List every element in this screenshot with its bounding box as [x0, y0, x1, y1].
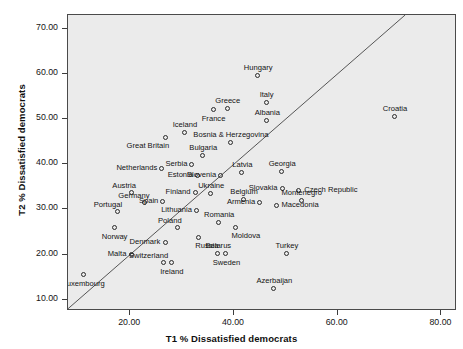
x-tick-mark — [337, 310, 338, 315]
data-point — [161, 260, 166, 265]
data-point — [81, 272, 86, 277]
data-point-label: Moldova — [232, 232, 261, 240]
data-point-label: Luxembourg — [67, 280, 105, 288]
data-point — [216, 220, 221, 225]
data-point-label: Ukraine — [198, 182, 224, 190]
data-point — [239, 170, 244, 175]
data-point-label: Albania — [255, 109, 280, 117]
data-point-label: Latvia — [232, 161, 252, 169]
scatter-chart: LuxembourgMaltaNorwayPortugalAustriaGerm… — [0, 0, 463, 349]
data-point — [163, 240, 168, 245]
data-point — [255, 73, 260, 78]
x-tick-mark — [233, 310, 234, 315]
y-tick-mark — [62, 254, 67, 255]
data-point-label: Portugal — [94, 201, 122, 209]
data-point — [193, 190, 198, 195]
data-point — [112, 225, 117, 230]
data-point-label: France — [202, 115, 226, 123]
y-tick-mark — [62, 208, 67, 209]
data-point-label: Ireland — [160, 268, 183, 276]
data-point-label: Montenegro — [281, 189, 322, 197]
data-point-label: Georgia — [269, 160, 296, 168]
data-point — [279, 169, 284, 174]
data-point-label: Malta — [108, 250, 127, 258]
data-point — [257, 200, 262, 205]
data-point-label: Spain — [139, 197, 158, 205]
y-tick-mark — [62, 163, 67, 164]
data-point — [160, 199, 165, 204]
x-tick-mark — [129, 310, 130, 315]
data-point-label: Azerbaijan — [256, 277, 292, 285]
data-point — [115, 209, 120, 214]
data-point-label: Iceland — [173, 121, 198, 129]
x-axis-title: T1 % Dissatisfied democrats — [0, 333, 463, 344]
data-point — [211, 107, 216, 112]
data-point-label: Turkey — [275, 242, 298, 250]
data-point-label: Croatia — [383, 105, 407, 113]
data-point-label: Denmark — [130, 238, 161, 246]
data-point — [218, 173, 223, 178]
data-point-label: Armenia — [227, 198, 255, 206]
data-point-label: Italy — [260, 91, 274, 99]
data-point — [264, 100, 269, 105]
x-tick-label: 80.00 — [410, 317, 463, 327]
data-point-label: Bosnia & Herzegovina — [193, 131, 268, 139]
data-point-label: Netherlands — [116, 164, 157, 172]
data-point-label: Austria — [112, 182, 136, 190]
data-point — [163, 135, 168, 140]
y-tick-mark — [62, 73, 67, 74]
data-point-label: Slovakia — [249, 184, 278, 192]
data-point — [274, 203, 279, 208]
y-tick-mark — [62, 299, 67, 300]
data-point — [194, 208, 199, 213]
data-point — [284, 251, 289, 256]
y-tick-mark — [62, 28, 67, 29]
data-point-label: Poland — [158, 217, 182, 225]
y-axis-title: T2 % Dissatisfied democrats — [16, 0, 27, 300]
data-point-label: Lithuania — [161, 206, 192, 214]
x-tick-label: 40.00 — [203, 317, 263, 327]
data-point — [233, 225, 238, 230]
x-tick-mark — [440, 310, 441, 315]
data-point-label: Belarus — [205, 242, 231, 250]
data-point-label: Hungary — [244, 64, 273, 72]
data-point — [169, 260, 174, 265]
data-point-label: Norway — [102, 233, 128, 241]
plot-area: LuxembourgMaltaNorwayPortugalAustriaGerm… — [67, 14, 456, 310]
data-point-label: Great Britain — [127, 142, 170, 150]
data-point-label: Greece — [215, 97, 240, 105]
data-point-label: Serbia — [165, 160, 187, 168]
x-tick-label: 20.00 — [99, 317, 159, 327]
data-point-label: Bulgaria — [189, 144, 217, 152]
data-point-label: Finland — [166, 188, 191, 196]
x-tick-label: 60.00 — [307, 317, 367, 327]
data-point-label: Slovenia — [187, 171, 216, 179]
data-point — [392, 114, 397, 119]
data-point-label: Switzerland — [129, 252, 168, 260]
data-point-label: Sweden — [213, 259, 240, 267]
data-point-label: Romania — [204, 211, 234, 219]
y-tick-mark — [62, 118, 67, 119]
